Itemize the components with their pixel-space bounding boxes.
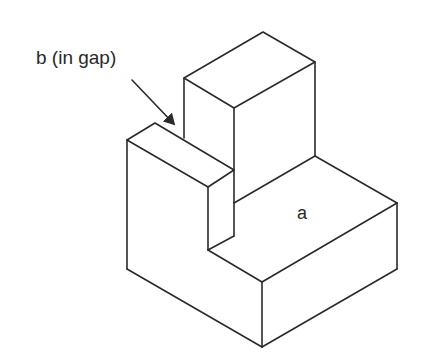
front-wall bbox=[127, 123, 234, 269]
label-a-face: a bbox=[297, 203, 307, 224]
tall-box bbox=[184, 32, 315, 236]
diagram-canvas: b (in gap) a bbox=[0, 0, 432, 358]
pointer-arrow bbox=[132, 80, 174, 124]
label-b-in-gap: b (in gap) bbox=[36, 47, 116, 69]
step-block bbox=[127, 156, 397, 347]
